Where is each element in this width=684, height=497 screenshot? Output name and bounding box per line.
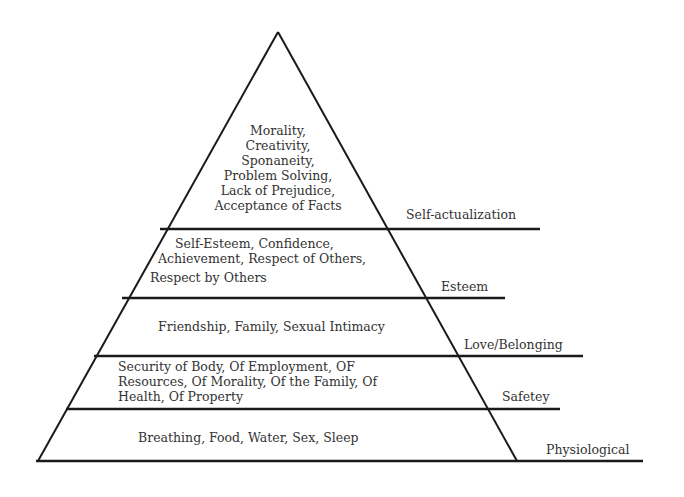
tier-text-line: Lack of Prejudice, xyxy=(188,183,368,198)
tier-text-line: Acceptance of Facts xyxy=(188,198,368,213)
tier-text-line: Sponaneity, xyxy=(188,153,368,168)
tier-text-line: Morality, xyxy=(188,123,368,138)
tier-text-line: Problem Solving, xyxy=(188,168,368,183)
tier-text-line: Breathing, Food, Water, Sex, Sleep xyxy=(138,430,359,445)
tier-text-line: Resources, Of Morality, Of the Family, O… xyxy=(118,374,377,389)
tier-label-safety: Safetey xyxy=(502,389,550,404)
tier-text-line: Respect by Others xyxy=(150,270,366,285)
tier-text-line: Health, Of Property xyxy=(118,389,377,404)
tier-label-love-belonging: Love/Belonging xyxy=(464,337,563,352)
tier-love-belonging-text: Friendship, Family, Sexual Intimacy xyxy=(158,319,385,334)
tier-text-line: Achievement, Respect of Others, xyxy=(150,251,366,266)
tier-physiological-text: Breathing, Food, Water, Sex, Sleep xyxy=(138,430,359,445)
tier-self-actualization-text: Morality, Creativity, Sponaneity, Proble… xyxy=(188,123,368,213)
tier-label-self-actualization: Self-actualization xyxy=(406,207,516,222)
tier-label-physiological: Physiological xyxy=(546,442,629,457)
tier-text-line: Self-Esteem, Confidence, xyxy=(150,236,366,251)
tier-text-line: Security of Body, Of Employment, OF xyxy=(118,359,377,374)
tier-safety-text: Security of Body, Of Employment, OF Reso… xyxy=(118,359,377,404)
tier-esteem-text: Self-Esteem, Confidence, Achievement, Re… xyxy=(150,236,366,285)
tier-label-esteem: Esteem xyxy=(441,279,488,294)
tier-text-line: Friendship, Family, Sexual Intimacy xyxy=(158,319,385,334)
tier-text-line: Creativity, xyxy=(188,138,368,153)
